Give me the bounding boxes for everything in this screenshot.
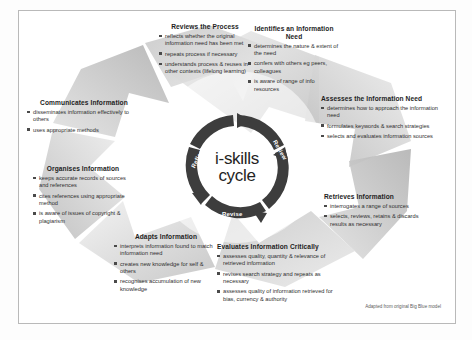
stage-bullet: keeps accurate records of sources and re…	[33, 175, 133, 190]
stage-heading: Identifies an Information Need	[248, 25, 340, 41]
hub-title-line2: cycle	[218, 167, 255, 184]
stage-block-retrieves: Retrieves Information interrogates a ran…	[324, 193, 432, 231]
attribution-credit: Adapted from original Big Blue model	[365, 304, 441, 309]
stage-bullets: interprets information found to match in…	[114, 243, 218, 294]
i-skills-cycle-poster: i-skills cycle Reflect Review Revise Ide…	[0, 0, 472, 340]
stage-bullets: interrogates a range of sources selects,…	[324, 203, 432, 228]
hub-title: i-skills cycle	[181, 111, 293, 223]
stage-block-adapts: Adapts Information interprets informatio…	[114, 233, 218, 296]
stage-bullet: interprets information found to match in…	[114, 243, 218, 258]
stage-bullet: interrogates a range of sources	[324, 203, 432, 211]
stage-bullet: determines how to approach the informati…	[321, 105, 443, 120]
stage-bullet: disseminates information effectively to …	[27, 109, 141, 124]
stage-block-organises: Organises Information keeps accurate rec…	[33, 165, 133, 228]
stage-heading: Reviews the Process	[159, 23, 251, 31]
stage-block-reviews: Reviews the Process reflects whether the…	[159, 23, 251, 78]
stage-bullets: reflects whether the original informatio…	[159, 33, 251, 76]
stage-bullet: creates new knowledge for self & others	[114, 261, 218, 276]
stage-bullet: selects, reviews, retains & discards res…	[324, 213, 432, 228]
stage-heading: Retrieves Information	[324, 193, 432, 201]
stage-bullet: selects and evaluates information source…	[321, 133, 443, 141]
stage-bullets: assesses quality, quantity & relevance o…	[217, 253, 335, 304]
stage-bullets: keeps accurate records of sources and re…	[33, 175, 133, 226]
stage-bullet: repeats process if necessary	[159, 51, 251, 59]
stage-bullets: determines how to approach the informati…	[321, 105, 443, 141]
stage-heading: Adapts Information	[114, 233, 218, 241]
stage-bullet: recognises accumulation of new knowledge	[114, 278, 218, 293]
stage-block-assesses: Assesses the Information Need determines…	[321, 95, 443, 143]
stage-bullet: reflects whether the original informatio…	[159, 33, 251, 48]
stage-bullet: confers with others eg peers, colleagues	[248, 60, 340, 75]
hub-title-line1: i-skills	[215, 150, 259, 167]
stage-bullet: is aware of issues of copyright & plagia…	[33, 210, 133, 225]
stage-bullets: determines the nature & extent of the ne…	[248, 43, 340, 94]
stage-bullets: disseminates information effectively to …	[27, 109, 141, 134]
ring-word-revise: Revise	[222, 211, 243, 217]
stage-bullet: assesses quality, quantity & relevance o…	[217, 253, 335, 268]
stage-bullet: determines the nature & extent of the ne…	[248, 43, 340, 58]
poster-frame: i-skills cycle Reflect Review Revise Ide…	[18, 10, 456, 324]
stage-block-evaluates: Evaluates Information Critically assesse…	[217, 243, 335, 306]
stage-bullet: assesses quality of information retrieve…	[217, 288, 335, 303]
stage-heading: Assesses the Information Need	[321, 95, 443, 103]
stage-heading: Organises Information	[33, 165, 133, 173]
stage-heading: Evaluates Information Critically	[217, 243, 335, 251]
stage-heading: Communicates Information	[27, 99, 141, 107]
stage-bullet: understands process & reuses in other co…	[159, 61, 251, 76]
stage-bullet: cites references using appropriate metho…	[33, 193, 133, 208]
cycle-hub: i-skills cycle Reflect Review Revise	[181, 111, 293, 223]
stage-bullet: revises search strategy and repeats as n…	[217, 271, 335, 286]
stage-block-identifies: Identifies an Information Need determine…	[248, 25, 340, 96]
stage-block-communicates: Communicates Information disseminates in…	[27, 99, 141, 137]
stage-bullet: uses appropriate methods	[27, 127, 141, 135]
stage-bullet: formulates keywords & search strategies	[321, 123, 443, 131]
stage-bullet: is aware of range of info resources	[248, 78, 340, 93]
